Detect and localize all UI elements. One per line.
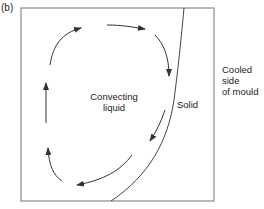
convecting-liquid-label: Convecting liquid xyxy=(79,91,149,113)
arrow-lower-right-diagonal xyxy=(150,110,165,141)
cooled-line2: side xyxy=(222,75,258,86)
cooled-line1: Cooled xyxy=(222,64,258,75)
solid-label: Solid xyxy=(177,99,198,110)
convecting-liquid-line1: Convecting xyxy=(79,91,149,102)
convecting-liquid-line2: liquid xyxy=(79,102,149,113)
panel-label: (b) xyxy=(1,2,13,13)
cooled-side-label: Cooled side of mould xyxy=(222,64,258,97)
arrow-right-down-arc xyxy=(155,35,169,76)
arrow-top-left-arc xyxy=(50,28,81,65)
arrow-top xyxy=(107,25,145,29)
cooled-line3: of mould xyxy=(222,86,258,97)
arrow-lower-left-arc xyxy=(48,148,62,181)
arrow-bottom-arc xyxy=(77,155,132,185)
